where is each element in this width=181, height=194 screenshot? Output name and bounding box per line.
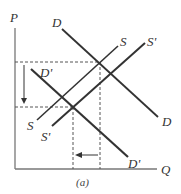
- dashed-guides: [15, 62, 100, 169]
- price-down-arrow: [21, 65, 27, 104]
- supply-curve-s: [37, 46, 118, 120]
- label-d-top: D: [51, 15, 62, 30]
- supply-curve-s-prime: [52, 43, 145, 126]
- q-axis-label: Q: [161, 162, 171, 177]
- figure-caption: (a): [76, 176, 89, 189]
- label-d-bottom: D: [161, 114, 172, 129]
- supply-demand-diagram: P Q D D D' D' S S S' S' (a): [0, 0, 181, 194]
- label-s-prime-bottom: S': [41, 129, 51, 144]
- label-d-prime-bottom: D': [127, 156, 140, 171]
- label-s-prime-top: S': [147, 34, 157, 49]
- label-d-prime-top: D': [39, 65, 52, 80]
- p-axis-label: P: [9, 10, 18, 25]
- label-s-top: S: [120, 34, 127, 49]
- quantity-left-arrow: [75, 152, 98, 158]
- label-s-bottom: S: [27, 118, 34, 133]
